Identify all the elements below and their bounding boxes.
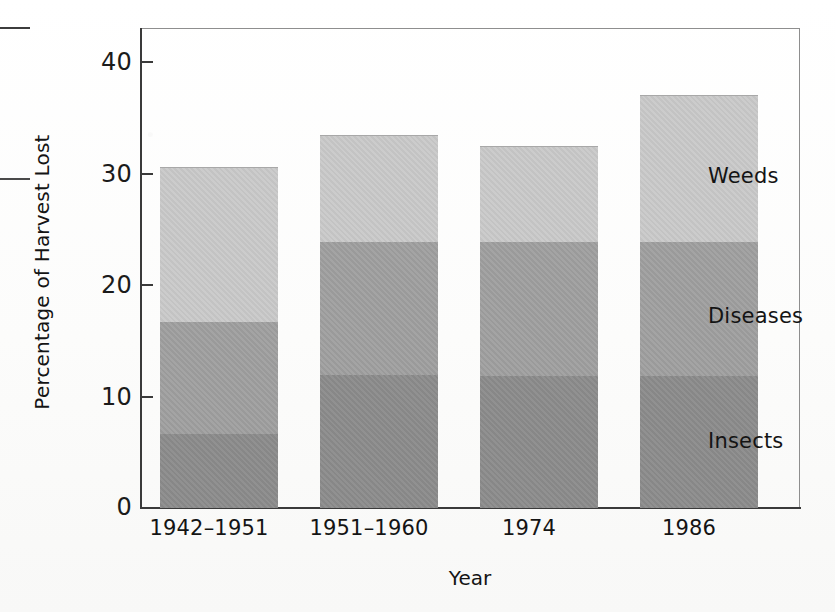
legend-label-diseases: Diseases [708, 305, 803, 327]
y-tick-label-20: 20 [72, 273, 132, 297]
bar-stack-1974[interactable] [480, 146, 598, 508]
legend-label-weeds: Weeds [708, 165, 779, 187]
y-tick-label-group: 40 30 20 10 0 [60, 0, 132, 560]
bar-segment-diseases-1974[interactable] [480, 242, 598, 376]
x-tick-label-1986: 1986 [590, 516, 788, 540]
bar-segment-weeds-1974[interactable] [480, 146, 598, 242]
bar-segment-weeds-1942-1951[interactable] [160, 167, 278, 322]
bar-segment-diseases-1951-1960[interactable] [320, 242, 438, 375]
y-tick-label-30: 30 [72, 162, 132, 186]
bar-segment-insects-1974[interactable] [480, 376, 598, 508]
bar-stack-1951-1960[interactable] [320, 135, 438, 508]
page-margin-rule-middle [0, 178, 30, 180]
x-axis-title: Year [140, 566, 800, 590]
y-tick-label-40: 40 [72, 50, 132, 74]
legend-label-insects: Insects [708, 430, 784, 452]
y-axis-title: Percentage of Harvest Lost [30, 62, 54, 482]
bar-segment-diseases-1942-1951[interactable] [160, 322, 278, 434]
bar-segment-insects-1951-1960[interactable] [320, 375, 438, 508]
bar-segment-insects-1942-1951[interactable] [160, 434, 278, 508]
page-margin-rule-top [0, 27, 30, 29]
bars-layer [140, 28, 800, 508]
bar-segment-weeds-1951-1960[interactable] [320, 135, 438, 242]
y-tick-label-10: 10 [72, 385, 132, 409]
bar-stack-1942-1951[interactable] [160, 167, 278, 508]
figure-canvas: 40 30 20 10 0 Percentage of Harvest Lost… [0, 0, 835, 612]
